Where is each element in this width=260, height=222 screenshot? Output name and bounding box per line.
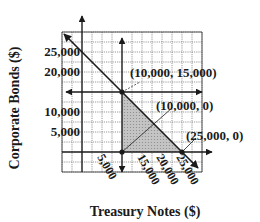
- point-label: (25,000, 0): [186, 128, 243, 143]
- vertex-point: [119, 149, 124, 154]
- vertex-point: [119, 89, 124, 94]
- leader-line-p1: [122, 82, 140, 92]
- feasible-region-chart: 25,000 20,000 10,000 5,000 5,000 15,000 …: [0, 0, 260, 222]
- point-label: (10,000, 0): [156, 98, 213, 113]
- x-tick-label: 5,000: [94, 152, 120, 182]
- y-tick-label: 5,000: [51, 124, 80, 139]
- y-axis-title: Corporate Bonds ($): [7, 46, 23, 169]
- x-axis-title: Treasury Notes ($): [90, 204, 201, 220]
- y-tick-label: 10,000: [44, 104, 80, 119]
- point-label: (10,000, 15,000): [130, 65, 217, 80]
- y-tick-label: 25,000: [44, 44, 80, 59]
- y-tick-label: 20,000: [44, 64, 80, 79]
